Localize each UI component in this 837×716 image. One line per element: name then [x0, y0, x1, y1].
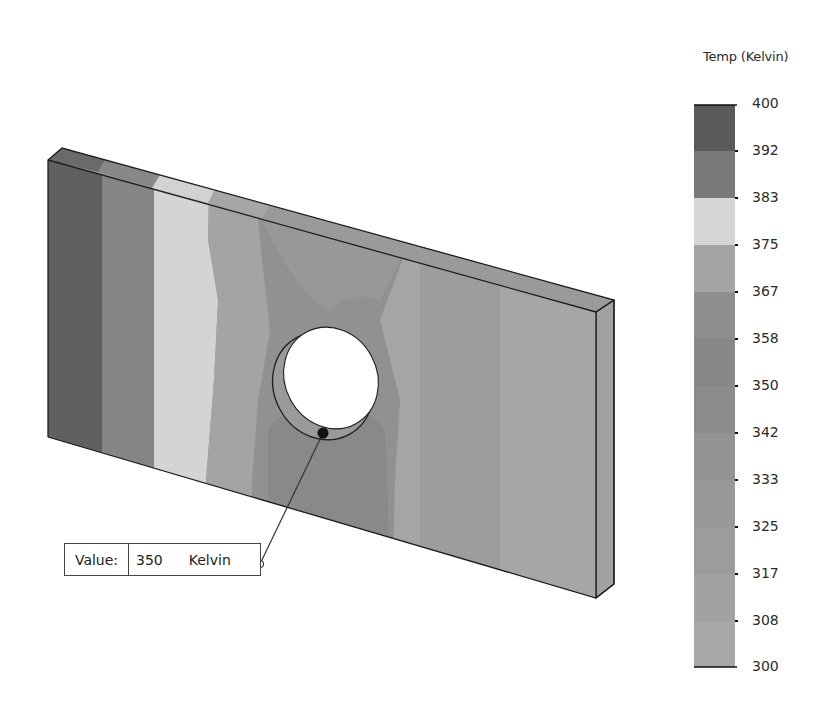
legend-tick-label: 350 — [752, 377, 779, 393]
probe-value-label: Value: — [65, 544, 129, 575]
legend-colorbar — [694, 105, 738, 667]
fea-temperature-plot — [0, 0, 837, 716]
legend-tick-label: 383 — [752, 189, 779, 205]
probe-value-box[interactable]: Value: 350 Kelvin — [64, 543, 261, 576]
legend-tick-label: 392 — [752, 142, 779, 158]
probe-point-icon — [318, 428, 329, 439]
plate-right-edge — [596, 300, 614, 598]
legend-tick-label: 325 — [752, 518, 779, 534]
legend-title: Temp (Kelvin) — [703, 49, 788, 64]
legend-tick-label: 358 — [752, 330, 779, 346]
probe-value: 350 — [129, 544, 163, 575]
legend-tick-label: 308 — [752, 612, 779, 628]
legend-tick-label: 317 — [752, 565, 779, 581]
legend-tick-label: 400 — [752, 95, 779, 111]
probe-unit: Kelvin — [163, 544, 231, 575]
legend-tick-label: 342 — [752, 424, 779, 440]
legend-tick-label: 367 — [752, 283, 779, 299]
legend-tick-label: 375 — [752, 236, 779, 252]
legend-tick-label: 333 — [752, 471, 779, 487]
legend-tick-label: 300 — [752, 658, 779, 674]
